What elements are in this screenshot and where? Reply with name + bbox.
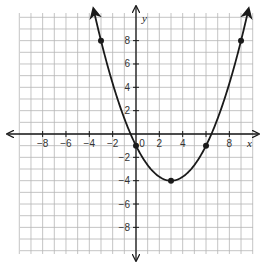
y-tick-label: −6 <box>119 199 131 210</box>
x-tick-label: −2 <box>107 138 119 149</box>
x-tick-label: 4 <box>180 138 186 149</box>
y-tick-label: −8 <box>119 222 131 233</box>
x-tick-label: 0 <box>139 138 145 149</box>
x-tick-label: −6 <box>60 138 72 149</box>
data-point <box>168 178 174 184</box>
y-tick-label: 8 <box>124 35 130 46</box>
x-tick-label: −4 <box>84 138 96 149</box>
data-point <box>203 143 209 149</box>
y-tick-label: 6 <box>124 58 130 69</box>
y-tick-label: −4 <box>119 175 131 186</box>
data-point <box>98 38 104 44</box>
data-point <box>133 143 139 149</box>
x-tick-label: 2 <box>157 138 163 149</box>
x-tick-label: −8 <box>37 138 49 149</box>
x-tick-label: 8 <box>227 138 233 149</box>
y-tick-label: 4 <box>124 82 130 93</box>
y-tick-label: −2 <box>119 152 131 163</box>
axes <box>8 7 258 260</box>
y-axis-label: y <box>141 12 147 24</box>
data-point <box>238 38 244 44</box>
coordinate-plane: −8−6−4−20248−8−6−4−22468 x y <box>0 0 264 267</box>
x-axis-label: x <box>246 137 252 149</box>
y-tick-label: 2 <box>124 105 130 116</box>
